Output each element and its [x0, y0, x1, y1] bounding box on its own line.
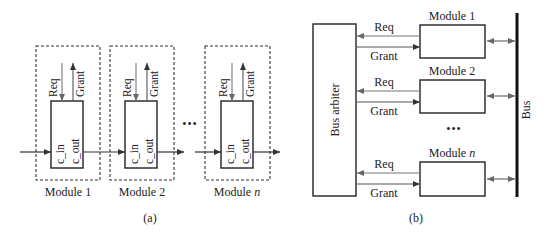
module-block [420, 162, 485, 196]
module-label: Module 2 [119, 185, 165, 199]
req-label: Req [374, 157, 393, 171]
req-label: Req [217, 78, 230, 97]
bus-label: Bus [519, 100, 533, 119]
ellipsis: ••• [182, 117, 198, 131]
grant-label: Grant [370, 104, 398, 118]
module-a-1: Req Grant c_in c_out Module 1 [36, 46, 100, 199]
module-b-1: Module 1 Req Grant [356, 9, 515, 63]
c-out-label: c_out [239, 138, 251, 164]
diagram-canvas: Req Grant c_in c_out Module 1 Req Grant … [0, 0, 551, 238]
module-b-2: Module 2 Req Grant [356, 64, 515, 118]
grant-label: Grant [74, 70, 86, 97]
module-label: Module n [214, 185, 260, 199]
grant-label: Grant [244, 70, 256, 97]
module-label: Module n [429, 146, 475, 160]
module-b-n: Module n Req Grant [356, 146, 515, 200]
grant-label: Grant [370, 186, 398, 200]
module-block [420, 80, 485, 113]
req-label: Req [374, 20, 393, 34]
c-out-label: c_out [143, 138, 155, 164]
c-in-label: c_in [224, 144, 236, 164]
module-label: Module 2 [429, 64, 475, 78]
req-label: Req [121, 78, 134, 97]
module-a-n: Req Grant c_in c_out Module n [205, 46, 270, 199]
panel-a: Req Grant c_in c_out Module 1 Req Grant … [20, 46, 280, 225]
ellipsis: ••• [446, 122, 462, 136]
caption-a: (a) [143, 211, 156, 225]
caption-b: (b) [409, 211, 423, 225]
req-label: Req [47, 78, 60, 97]
module-block [420, 25, 485, 58]
module-a-2: Req Grant c_in c_out Module 2 [110, 46, 174, 199]
module-label: Module 1 [45, 185, 91, 199]
bus-arbiter-label: Bus arbiter [328, 84, 342, 137]
c-in-label: c_in [54, 144, 66, 164]
panel-b: Bus arbiter Bus Module 1 Req Grant Modul… [313, 9, 533, 225]
grant-label: Grant [370, 49, 398, 63]
req-label: Req [374, 75, 393, 89]
grant-label: Grant [148, 70, 160, 97]
module-label: Module 1 [429, 9, 475, 23]
c-out-label: c_out [69, 138, 81, 164]
c-in-label: c_in [128, 144, 140, 164]
